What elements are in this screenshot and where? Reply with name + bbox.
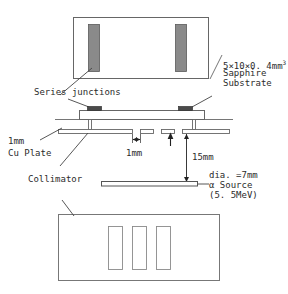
- substrate-dim-exponent: 3: [283, 59, 287, 66]
- junction-pad-right: [179, 107, 193, 111]
- label-gap-dimension: 1mm: [126, 148, 142, 159]
- gap-dimension-1mm: [133, 134, 141, 143]
- assembly-cross-section: [55, 107, 233, 134]
- cu-plate-segment-1: [59, 130, 133, 134]
- beam-direction-arrow: [168, 133, 174, 147]
- collimator-slot-2: [133, 227, 147, 270]
- leader-series-junction-section: [68, 99, 89, 107]
- support-post-left: [89, 120, 92, 130]
- collimator-slot-3: [157, 227, 171, 270]
- alpha-source-body: [102, 182, 198, 187]
- collimator-slot-1: [109, 227, 123, 270]
- leader-substrate-dim: [210, 55, 222, 79]
- label-source-distance: 15mm: [192, 152, 214, 163]
- leader-cu-plate-name: [60, 133, 88, 166]
- leader-collimator: [62, 200, 74, 216]
- label-cu-plate-thickness: 1mm: [8, 136, 24, 147]
- junction-pad-left: [88, 107, 102, 111]
- label-substrate-name-line1: Sapphire: [223, 68, 266, 79]
- label-source-name: α Source: [209, 180, 252, 191]
- collimator-plan-view: [59, 215, 220, 281]
- sapphire-substrate-top-view: [74, 18, 209, 79]
- technical-drawing: [0, 0, 288, 294]
- cu-plate-segment-4: [183, 130, 230, 134]
- alpha-source-bar: [102, 182, 198, 187]
- label-source-diameter: dia. =7mm: [209, 170, 258, 181]
- label-collimator: Collimator: [28, 174, 82, 185]
- junction-bar-right: [176, 25, 187, 72]
- cu-plate-segment-3: [162, 130, 175, 134]
- label-series-junctions: Series junctions: [34, 87, 121, 98]
- source-distance-dimension: [184, 134, 189, 182]
- support-post-right: [193, 120, 196, 130]
- label-substrate-name-line2: Substrate: [223, 78, 272, 89]
- label-cu-plate-name: Cu Plate: [8, 148, 51, 159]
- leader-substrate-section: [192, 96, 212, 107]
- figure-canvas: Series junctions 5×10×0. 4mm3 Sapphire S…: [0, 0, 288, 294]
- label-source-energy: (5. 5MeV): [209, 190, 258, 201]
- cu-plate-segment-2: [141, 130, 154, 134]
- leader-cu-plate-thickness: [40, 128, 62, 140]
- substrate-slab: [80, 111, 205, 120]
- junction-bar-left: [89, 25, 100, 72]
